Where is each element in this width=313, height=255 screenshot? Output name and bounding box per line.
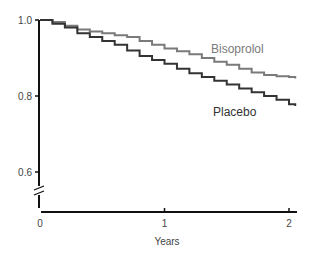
axis-break-mark <box>34 191 44 195</box>
x-tick-label: 2 <box>286 218 292 229</box>
x-tick-label: 0 <box>37 218 43 229</box>
series-label-bisoprolol: Bisoprolol <box>211 42 264 56</box>
plot-area: 0.60.81.0 012 Years Bisoprolol Placebo <box>0 0 313 255</box>
x-axis-label: Years <box>154 236 179 247</box>
y-tick-label: 0.6 <box>18 167 32 178</box>
y-ticks: 0.60.81.0 <box>18 15 39 178</box>
series-label-placebo: Placebo <box>213 105 257 119</box>
y-tick-label: 0.8 <box>18 91 32 102</box>
y-tick-label: 1.0 <box>18 15 32 26</box>
axis-break-mark <box>34 186 44 190</box>
series-lines <box>40 20 295 106</box>
series-line-placebo <box>40 20 295 106</box>
x-tick-label: 1 <box>162 218 168 229</box>
kaplan-meier-chart: 0.60.81.0 012 Years Bisoprolol Placebo <box>0 0 313 255</box>
